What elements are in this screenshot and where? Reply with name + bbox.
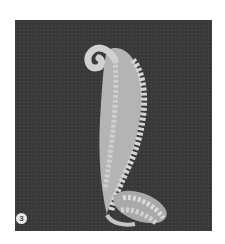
figure-number-badge: 3 xyxy=(16,213,27,224)
brooch-photograph xyxy=(15,20,212,231)
brooch-illustration xyxy=(15,20,212,231)
